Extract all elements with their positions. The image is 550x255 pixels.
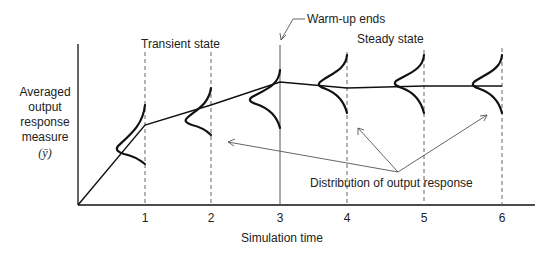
distribution-label: Distribution of output response bbox=[310, 176, 473, 190]
ylabel-line-1: Averaged bbox=[19, 85, 70, 99]
output-response-diagram: Warm-up ends Transient state Steady stat… bbox=[0, 0, 550, 255]
arrow-to-dist-6 bbox=[398, 115, 487, 172]
x-tick-1: 1 bbox=[142, 211, 149, 225]
distribution-4 bbox=[319, 55, 347, 113]
y-axis-label: Averaged output response measure (ȳ) bbox=[19, 85, 70, 160]
distribution-6 bbox=[473, 55, 502, 113]
x-axis-label: Simulation time bbox=[241, 231, 323, 245]
distribution-5 bbox=[395, 55, 424, 113]
ylabel-line-2: output bbox=[28, 100, 62, 114]
ylabel-line-4: measure bbox=[22, 130, 69, 144]
x-tick-3: 3 bbox=[277, 211, 284, 225]
ylabel-line-5: (ȳ) bbox=[38, 146, 51, 160]
arrow-to-dist-4 bbox=[358, 128, 398, 172]
warmup-callout bbox=[280, 19, 305, 40]
x-tick-4: 4 bbox=[344, 211, 351, 225]
warmup-label: Warm-up ends bbox=[307, 12, 385, 26]
distribution-3 bbox=[250, 70, 280, 128]
distribution-1 bbox=[117, 105, 145, 164]
ylabel-line-3: response bbox=[20, 115, 70, 129]
arrow-to-dist-2 bbox=[228, 142, 398, 172]
distributions bbox=[117, 55, 502, 164]
distribution-callout bbox=[228, 115, 487, 172]
x-tick-labels: 1 2 3 4 5 6 bbox=[142, 211, 506, 225]
transient-label: Transient state bbox=[141, 37, 220, 51]
steady-label: Steady state bbox=[357, 32, 424, 46]
x-tick-6: 6 bbox=[499, 211, 506, 225]
x-tick-5: 5 bbox=[421, 211, 428, 225]
x-tick-2: 2 bbox=[208, 211, 215, 225]
